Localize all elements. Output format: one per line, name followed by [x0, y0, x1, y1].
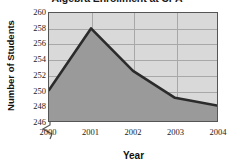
area-series: [49, 13, 217, 121]
x-axis-title: Year: [48, 150, 219, 161]
chart-container: Algebra Enrollment at CPA Number of Stud…: [0, 0, 234, 168]
y-tick-label: 256: [22, 39, 46, 48]
x-tick-label: 2000: [28, 127, 68, 137]
y-tick-label: 260: [22, 8, 46, 17]
x-tick-label: 2001: [71, 127, 111, 137]
y-tick-label: 258: [22, 24, 46, 33]
x-tick-label: 2003: [156, 127, 196, 137]
y-axis-title: Number of Students: [5, 5, 16, 127]
x-tick-label: 2004: [198, 127, 234, 137]
plot-area: [48, 12, 218, 122]
y-tick-label: 254: [22, 55, 46, 64]
y-axis-tick-labels: 260 258 256 254 252 250 248 246: [20, 0, 46, 168]
y-tick-label: 252: [22, 71, 46, 80]
y-tick-label: 250: [22, 87, 46, 96]
area-fill: [49, 28, 217, 121]
x-tick-label: 2002: [113, 127, 153, 137]
y-tick-label: 248: [22, 102, 46, 111]
